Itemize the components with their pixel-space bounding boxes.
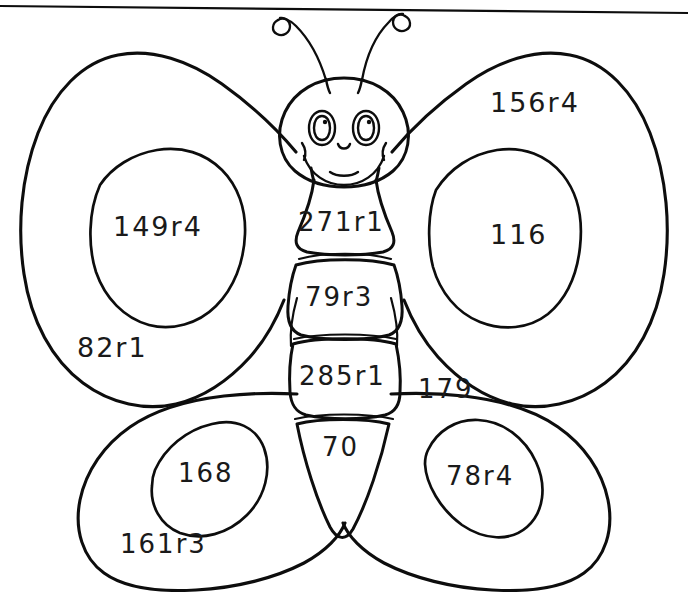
top-border-line — [0, 6, 688, 13]
label-body-segment-2: 79r3 — [305, 284, 373, 310]
label-body-segment-4: 70 — [322, 434, 359, 460]
left-antenna — [278, 19, 326, 80]
label-lower-right-inner: 78r4 — [446, 463, 514, 489]
left-antenna-curl — [273, 18, 290, 35]
label-upper-left-outer: 82r1 — [77, 334, 148, 361]
label-upper-left-inner: 149r4 — [113, 213, 203, 240]
label-body-segment-1: 271r1 — [298, 209, 385, 235]
label-lower-right-outer: 179 — [418, 376, 474, 402]
right-antenna-curl — [393, 14, 410, 31]
left-eye-pupil — [314, 116, 330, 140]
right-eye-highlight — [367, 120, 371, 124]
right-eye-pupil — [358, 116, 374, 140]
worksheet-canvas: 149r4 82r1 156r4 116 168 161r3 179 78r4 … — [0, 0, 688, 592]
left-eye-highlight — [323, 120, 327, 124]
label-upper-right-outer: 156r4 — [490, 89, 580, 116]
label-body-segment-3: 285r1 — [299, 363, 386, 389]
lower-lip — [330, 172, 358, 176]
label-upper-right-inner: 116 — [490, 221, 548, 248]
label-lower-left-inner: 168 — [178, 460, 234, 486]
label-lower-left-outer: 161r3 — [120, 531, 207, 557]
smile — [304, 156, 384, 185]
right-antenna — [362, 15, 405, 80]
nose — [338, 144, 350, 149]
butterfly-head — [280, 78, 409, 187]
